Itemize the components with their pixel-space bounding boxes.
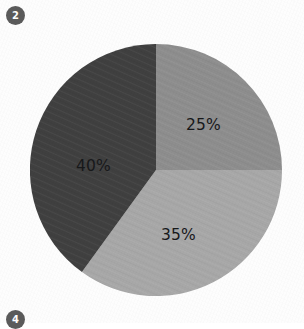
step-badge-2[interactable]: 2 <box>6 6 25 25</box>
pie-texture-overlay <box>30 44 282 296</box>
pie-label-40: 40% <box>76 157 111 175</box>
pie-svg <box>30 44 282 296</box>
pie-graphic <box>30 44 282 296</box>
pie-label-25: 25% <box>186 116 221 134</box>
pie-label-35: 35% <box>161 226 196 244</box>
step-badge-4[interactable]: 4 <box>6 310 25 329</box>
